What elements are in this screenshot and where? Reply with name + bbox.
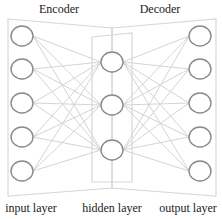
network-canvas (0, 0, 222, 219)
decoder-edge (123, 36, 189, 62)
input-node (11, 59, 33, 79)
decoder-label: Decoder (140, 2, 181, 16)
input-node (11, 127, 33, 147)
encoder-label: Encoder (39, 2, 79, 16)
hidden-node (101, 95, 123, 115)
decoder-edge (123, 36, 189, 105)
output-layer-label: output layer (159, 201, 217, 215)
decoder-edge (123, 103, 189, 105)
input-node (11, 93, 33, 113)
decoder-edge (123, 62, 189, 171)
encoder-edge (33, 62, 101, 171)
output-node (189, 127, 211, 147)
decoder-edge (123, 36, 189, 150)
encoder-edge (33, 36, 101, 105)
output-node (189, 59, 211, 79)
hidden-layer-label: hidden layer (82, 201, 142, 215)
output-node (189, 26, 211, 46)
encoder-edge (33, 36, 101, 62)
output-node (189, 161, 211, 181)
hidden-node (101, 52, 123, 72)
hidden-node (101, 140, 123, 160)
encoder-edge (33, 36, 101, 150)
encoder-edge (33, 103, 101, 105)
output-node (189, 93, 211, 113)
input-layer-label: input layer (5, 201, 57, 215)
input-node (11, 161, 33, 181)
input-node (11, 26, 33, 46)
